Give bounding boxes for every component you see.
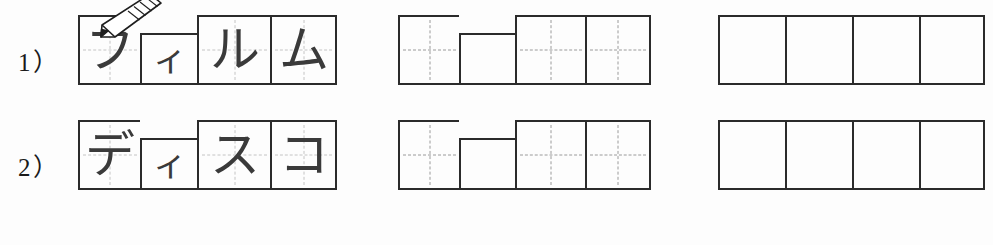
row-1-guided-cell-1[interactable] bbox=[398, 15, 459, 85]
row-2-model-word-group: デ ィ ス コ bbox=[78, 113, 340, 218]
row-label-1: 1） bbox=[18, 50, 60, 75]
guide-horizontal-icon bbox=[403, 50, 456, 51]
row-1-blank-cell-4[interactable] bbox=[919, 15, 985, 85]
row-1-guided-practice-cells bbox=[398, 15, 651, 85]
row-2-guided-practice-group bbox=[398, 113, 652, 218]
row-1-blank-cell-1[interactable] bbox=[718, 15, 785, 85]
guide-vertical-icon bbox=[551, 20, 552, 80]
row-1-model-cell-4[interactable]: ム bbox=[270, 15, 337, 85]
row-1-blank-practice-group bbox=[718, 8, 985, 113]
guide-horizontal-icon bbox=[520, 155, 582, 156]
row-2-guided-cell-1[interactable] bbox=[398, 120, 459, 190]
row-2-blank-cell-2[interactable] bbox=[785, 120, 852, 190]
guide-vertical-icon bbox=[551, 125, 552, 185]
row-1-guided-cell-2[interactable] bbox=[459, 33, 515, 85]
row-2-guided-cell-3[interactable] bbox=[515, 120, 585, 190]
row-2-model-cell-2[interactable]: ィ bbox=[140, 138, 197, 190]
exercise-row-2: 2） デ ィ ス bbox=[0, 113, 993, 218]
guide-horizontal-icon bbox=[590, 50, 646, 51]
row-1-model-cell-2[interactable]: ィ bbox=[140, 33, 197, 85]
guide-vertical-icon bbox=[429, 20, 430, 80]
row-1-guided-cell-3[interactable] bbox=[515, 15, 585, 85]
row-2-model-word-cells: デ ィ ス コ bbox=[78, 120, 337, 190]
row-1-model-word-group: フ bbox=[78, 8, 340, 113]
katakana-glyph: ィ bbox=[142, 140, 197, 188]
guide-vertical-icon bbox=[618, 125, 619, 185]
guide-horizontal-icon bbox=[403, 155, 456, 156]
row-2-model-cell-3[interactable]: ス bbox=[197, 120, 270, 190]
row-1-blank-cell-3[interactable] bbox=[852, 15, 919, 85]
row-2-blank-practice-cells bbox=[718, 120, 985, 190]
exercise-row-1: 1） フ bbox=[0, 8, 993, 113]
katakana-glyph: デ bbox=[80, 122, 140, 188]
row-2-blank-practice-group bbox=[718, 113, 985, 218]
katakana-glyph: フ bbox=[80, 17, 140, 83]
row-2-guided-practice-cells bbox=[398, 120, 651, 190]
row-1-blank-cell-2[interactable] bbox=[785, 15, 852, 85]
guide-horizontal-icon bbox=[590, 155, 646, 156]
row-1-blank-practice-cells bbox=[718, 15, 985, 85]
guide-horizontal-icon bbox=[520, 50, 582, 51]
row-2-blank-cell-1[interactable] bbox=[718, 120, 785, 190]
row-2-blank-cell-4[interactable] bbox=[919, 120, 985, 190]
row-1-guided-practice-group bbox=[398, 8, 652, 113]
row-1-model-cell-3[interactable]: ル bbox=[197, 15, 270, 85]
row-2-model-cell-4[interactable]: コ bbox=[270, 120, 337, 190]
row-2-guided-cell-2[interactable] bbox=[459, 138, 515, 190]
katakana-glyph: ム bbox=[272, 17, 335, 83]
katakana-glyph: ィ bbox=[142, 35, 197, 83]
guide-vertical-icon bbox=[429, 125, 430, 185]
row-label-2: 2） bbox=[18, 155, 60, 180]
row-2-model-cell-1[interactable]: デ bbox=[78, 120, 140, 190]
guide-vertical-icon bbox=[618, 20, 619, 80]
katakana-glyph: ル bbox=[199, 17, 270, 83]
row-2-guided-cell-4[interactable] bbox=[585, 120, 651, 190]
row-2-blank-cell-3[interactable] bbox=[852, 120, 919, 190]
row-1-guided-cell-4[interactable] bbox=[585, 15, 651, 85]
worksheet-canvas: 1） フ bbox=[0, 0, 993, 245]
row-1-model-word-cells: フ bbox=[78, 15, 337, 85]
katakana-glyph: ス bbox=[199, 122, 270, 188]
row-1-model-cell-1[interactable]: フ bbox=[78, 15, 140, 85]
katakana-glyph: コ bbox=[272, 122, 335, 188]
